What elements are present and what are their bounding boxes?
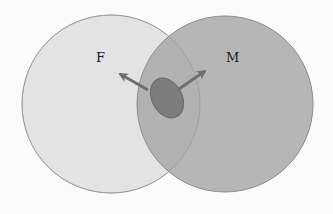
set-m-label: M: [226, 50, 239, 65]
set-f-label: F: [96, 50, 105, 65]
venn-diagram: F M: [0, 0, 333, 214]
